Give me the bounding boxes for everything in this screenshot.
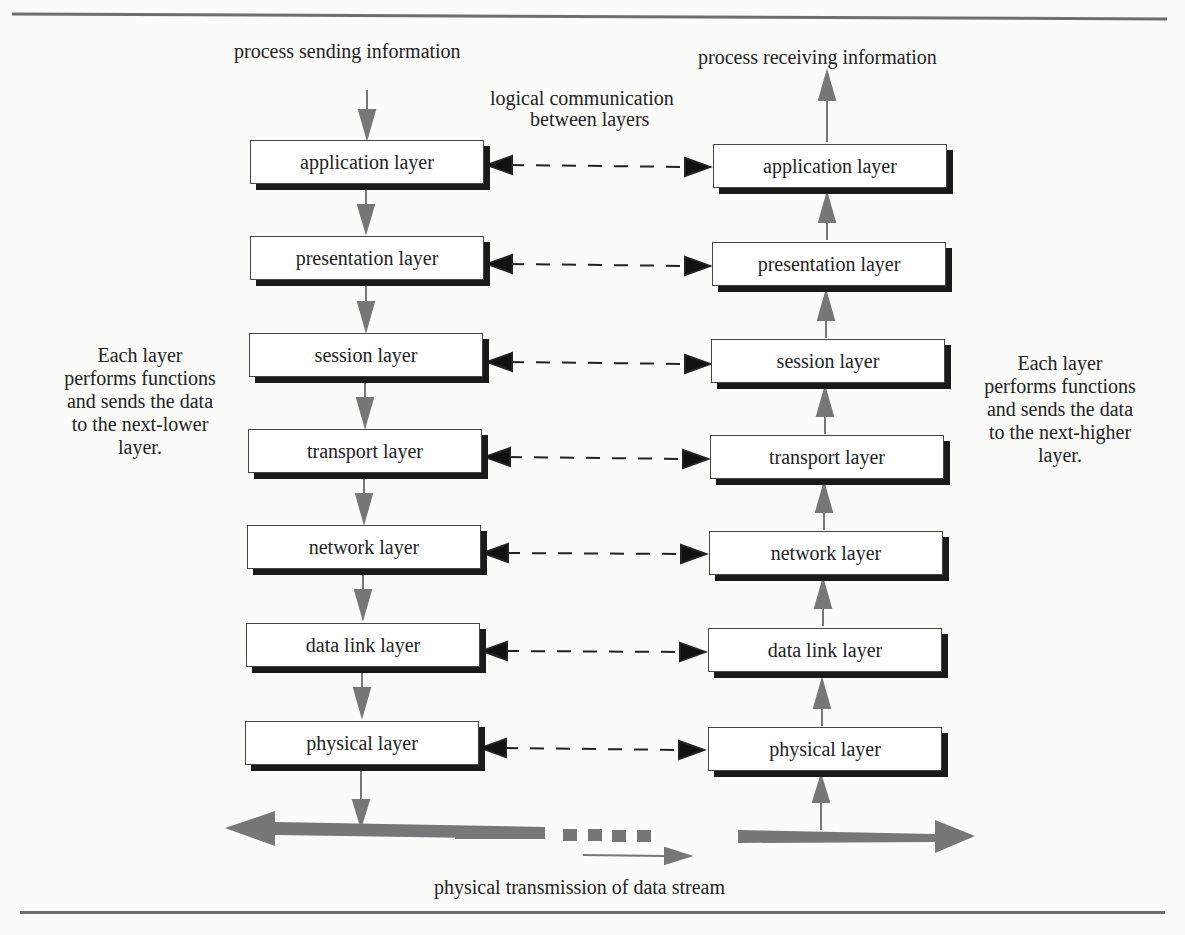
receiver-session-layer: session layer xyxy=(711,339,945,383)
sender-presentation-layer: presentation layer xyxy=(250,236,484,280)
sender-physical-layer: physical layer xyxy=(245,721,479,765)
receiver-physical-layer: physical layer xyxy=(708,727,942,771)
peer-arrows xyxy=(481,156,710,759)
receiver-presentation-layer: presentation layer xyxy=(712,242,946,286)
receiver-transport-layer: transport layer xyxy=(710,435,944,479)
receiver-data-link-layer: data link layer xyxy=(708,628,942,672)
sender-session-layer: session layer xyxy=(249,333,483,377)
physical-medium-arrow xyxy=(225,811,975,853)
receiver-application-layer: application layer xyxy=(713,144,947,188)
arrows-layer xyxy=(0,0,1185,935)
sender-data-link-layer: data link layer xyxy=(246,623,480,667)
sender-network-layer: network layer xyxy=(247,525,481,569)
receiver-network-layer: network layer xyxy=(709,531,943,575)
physical-transmission-label: physical transmission of data stream xyxy=(434,876,725,898)
sender-transport-layer: transport layer xyxy=(248,429,482,473)
direction-arrow xyxy=(583,848,690,864)
sender-application-layer: application layer xyxy=(250,140,484,184)
